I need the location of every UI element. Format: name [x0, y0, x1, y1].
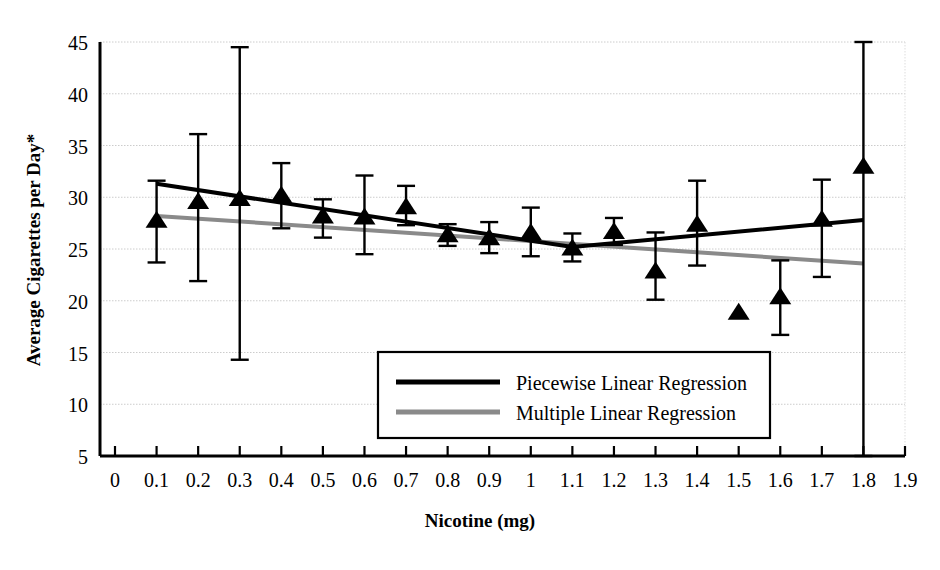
y-axis-title-text: Average Cigarettes per Day* — [23, 134, 44, 367]
x-tick-label: 0.6 — [352, 469, 377, 491]
y-tick-label: 25 — [68, 239, 88, 261]
x-tick-label: 1.2 — [601, 469, 626, 491]
x-tick-label: 0 — [110, 469, 120, 491]
x-tick-label: 0.8 — [435, 469, 460, 491]
y-tick-label: 10 — [68, 394, 88, 416]
y-tick-label: 15 — [68, 343, 88, 365]
x-tick-label: 1.9 — [893, 469, 918, 491]
y-tick-label: 45 — [68, 32, 88, 54]
legend-label-multiple: Multiple Linear Regression — [516, 402, 736, 425]
x-tick-label: 1.5 — [726, 469, 751, 491]
y-axis-title: Average Cigarettes per Day* — [23, 134, 44, 367]
legend-box — [378, 352, 770, 438]
x-tick-label: 0.5 — [310, 469, 335, 491]
x-axis-title-text: Nicotine (mg) — [425, 510, 535, 532]
legend-label-piecewise: Piecewise Linear Regression — [516, 372, 747, 395]
chart-background — [0, 0, 940, 570]
y-tick-label: 30 — [68, 187, 88, 209]
x-tick-label: 1.6 — [768, 469, 793, 491]
y-tick-label: 40 — [68, 84, 88, 106]
y-tick-label: 35 — [68, 136, 88, 158]
y-tick-label: 5 — [78, 446, 88, 468]
x-tick-label: 1.3 — [643, 469, 668, 491]
y-axis-tick-labels: 51015202530354045 — [68, 32, 88, 468]
x-tick-label: 1.7 — [809, 469, 834, 491]
chart-figure: 00.10.20.30.40.50.60.70.80.911.11.21.31.… — [0, 0, 940, 570]
nicotine-cigarettes-scatter-chart: 00.10.20.30.40.50.60.70.80.911.11.21.31.… — [0, 0, 940, 570]
x-tick-label: 0.9 — [477, 469, 502, 491]
y-tick-label: 20 — [68, 291, 88, 313]
x-tick-label: 0.3 — [227, 469, 252, 491]
x-tick-label: 0.1 — [144, 469, 169, 491]
chart-legend: Piecewise Linear Regression Multiple Lin… — [378, 352, 770, 438]
x-tick-label: 1.4 — [685, 469, 710, 491]
x-tick-label: 1.8 — [851, 469, 876, 491]
x-tick-label: 1.1 — [560, 469, 585, 491]
x-tick-label: 0.7 — [394, 469, 419, 491]
x-axis-title: Nicotine (mg) — [425, 510, 535, 532]
x-tick-label: 1 — [526, 469, 536, 491]
x-tick-label: 0.4 — [269, 469, 294, 491]
x-tick-label: 0.2 — [186, 469, 211, 491]
